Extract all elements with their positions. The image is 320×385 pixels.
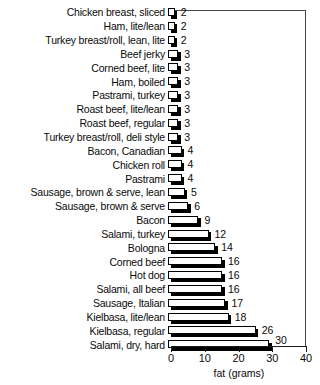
bar-value-label: 17 — [231, 297, 243, 310]
bar-row: Pastrami4 — [0, 172, 320, 186]
bar — [168, 146, 182, 155]
bar-plot-area: 26 — [168, 324, 320, 338]
bar-face — [168, 50, 178, 58]
bar-row: Kielbasa, regular26 — [0, 324, 320, 338]
bar-value-label: 2 — [181, 6, 187, 19]
bar-plot-area: 9 — [168, 214, 320, 228]
bar-value-label: 9 — [204, 214, 210, 227]
bar — [168, 243, 215, 252]
bar-row: Salami, turkey12 — [0, 228, 320, 242]
bar-value-label: 6 — [194, 200, 200, 213]
bar-value-label: 4 — [188, 144, 194, 157]
bar-plot-area: 3 — [168, 103, 320, 117]
bar-category-label: Turkey breast/roll, lean, lite — [0, 35, 168, 46]
x-axis-tick-label: 40 — [300, 352, 312, 365]
bar-row: Chicken breast, sliced2 — [0, 6, 320, 20]
bar-value-label: 3 — [184, 61, 190, 74]
bar-face — [168, 174, 182, 182]
bar-row: Roast beef, regular3 — [0, 117, 320, 131]
bar-face — [168, 8, 175, 16]
bar — [168, 63, 178, 72]
bar-category-label: Beef jerky — [0, 49, 168, 60]
bar-row: Sausage, Italian17 — [0, 297, 320, 311]
bar — [168, 160, 182, 169]
bar-plot-area: 4 — [168, 158, 320, 172]
bar-category-label: Sausage, brown & serve, lean — [0, 187, 168, 198]
bar-row: Roast beef, lite/lean3 — [0, 103, 320, 117]
bar-plot-area: 16 — [168, 269, 320, 283]
bar-category-label: Bacon, Canadian — [0, 146, 168, 157]
bar-face — [168, 285, 222, 293]
bar-face — [168, 133, 178, 141]
bar-category-label: Kielbasa, lite/lean — [0, 312, 168, 323]
bar-rows-container: Chicken breast, sliced2Ham, lite/lean2Tu… — [0, 6, 320, 352]
bar-face — [168, 257, 222, 265]
bar-row: Salami, all beef16 — [0, 283, 320, 297]
bar-plot-area: 3 — [168, 75, 320, 89]
bar-category-label: Sausage, brown & serve — [0, 201, 168, 212]
bar-category-label: Bologna — [0, 243, 168, 254]
bar-value-label: 16 — [228, 255, 240, 268]
x-axis-tick-label: 0 — [168, 352, 174, 365]
bar-value-label: 3 — [184, 48, 190, 61]
bar-face — [168, 91, 178, 99]
bar-face — [168, 299, 225, 307]
bar-category-label: Salami, turkey — [0, 229, 168, 240]
bar — [168, 257, 222, 266]
bar-row: Kielbasa, lite/lean18 — [0, 311, 320, 325]
bar-category-label: Chicken roll — [0, 160, 168, 171]
bar-row: Turkey breast/roll, lean, lite2 — [0, 34, 320, 48]
bar-value-label: 2 — [181, 34, 187, 47]
bar-row: Hot dog16 — [0, 269, 320, 283]
bar — [168, 91, 178, 100]
bar-face — [168, 36, 175, 44]
bar-row: Ham, lite/lean2 — [0, 20, 320, 34]
bar-face — [168, 216, 198, 224]
bar-row: Sausage, brown & serve, lean5 — [0, 186, 320, 200]
bar — [168, 36, 175, 45]
bar-category-label: Ham, lite/lean — [0, 21, 168, 32]
bar-plot-area: 2 — [168, 6, 320, 20]
bar-row: Bacon9 — [0, 214, 320, 228]
bar-plot-area: 18 — [168, 311, 320, 325]
bar-face — [168, 243, 215, 251]
bar-face — [168, 160, 182, 168]
bar-value-label: 16 — [228, 283, 240, 296]
bar — [168, 216, 198, 225]
bar-plot-area: 5 — [168, 186, 320, 200]
bar-value-label: 4 — [188, 158, 194, 171]
bar — [168, 133, 178, 142]
bar-value-label: 3 — [184, 117, 190, 130]
bar — [168, 313, 229, 322]
bar-plot-area: 17 — [168, 297, 320, 311]
bar-row: Sausage, brown & serve6 — [0, 200, 320, 214]
fat-content-bar-chart: Chicken breast, sliced2Ham, lite/lean2Tu… — [0, 0, 320, 385]
bar-plot-area: 4 — [168, 144, 320, 158]
bar-category-label: Roast beef, lite/lean — [0, 104, 168, 115]
bar-plot-area: 3 — [168, 61, 320, 75]
bar-plot-area: 16 — [168, 283, 320, 297]
bar-value-label: 26 — [262, 324, 274, 337]
bar-value-label: 12 — [215, 228, 227, 241]
bar-value-label: 3 — [184, 103, 190, 116]
bar-row: Chicken roll4 — [0, 158, 320, 172]
bar-category-label: Salami, dry, hard — [0, 340, 168, 351]
bar-value-label: 5 — [191, 186, 197, 199]
bar-face — [168, 340, 269, 348]
bar-value-label: 16 — [228, 269, 240, 282]
bar-row: Corned beef16 — [0, 255, 320, 269]
bar-row: Bacon, Canadian4 — [0, 144, 320, 158]
bar-row: Beef jerky3 — [0, 48, 320, 62]
bar-plot-area: 14 — [168, 241, 320, 255]
x-axis-title: fat (grams) — [171, 367, 307, 379]
bar-face — [168, 188, 185, 196]
bar-plot-area: 12 — [168, 228, 320, 242]
bar-value-label: 2 — [181, 20, 187, 33]
bar-value-label: 3 — [184, 89, 190, 102]
bar-row: Pastrami, turkey3 — [0, 89, 320, 103]
bar-face — [168, 271, 222, 279]
bar-category-label: Roast beef, regular — [0, 118, 168, 129]
bar-category-label: Sausage, Italian — [0, 298, 168, 309]
bar — [168, 326, 256, 335]
bar — [168, 285, 222, 294]
